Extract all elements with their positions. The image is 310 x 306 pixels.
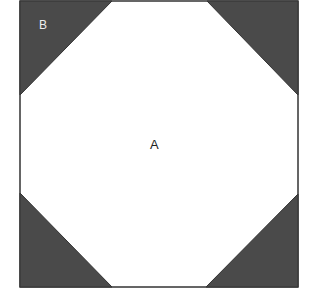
region-b-label: B bbox=[39, 18, 47, 32]
square-diagram bbox=[0, 0, 310, 306]
region-a-label: A bbox=[150, 137, 159, 152]
